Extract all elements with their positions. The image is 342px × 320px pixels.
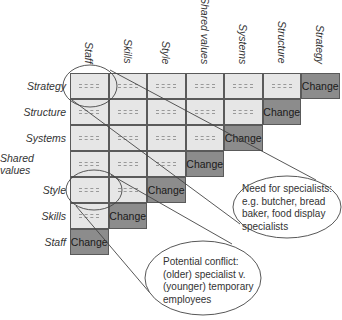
callout-conflict-text: Potential conflict: (older) specialist v… [163, 256, 254, 306]
connector-line [72, 100, 240, 224]
highlight-ellipse-style-staff [66, 170, 122, 210]
callout-specialists-text: Need for specialists: e.g. butcher, brea… [242, 183, 332, 233]
highlight-ellipse-strategy-staff [63, 65, 117, 107]
connector-line [76, 206, 150, 293]
connector-line [110, 70, 316, 180]
connector-line [111, 175, 232, 244]
